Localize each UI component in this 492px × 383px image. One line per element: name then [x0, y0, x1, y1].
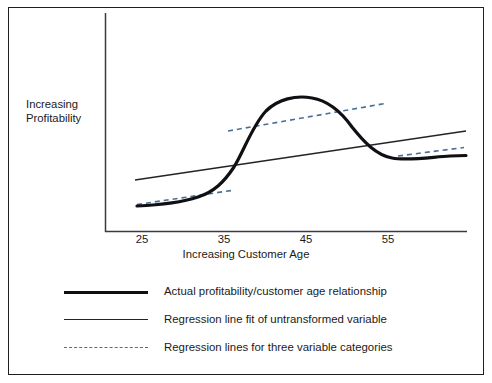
dashed-category-regression-lines: [137, 104, 464, 205]
legend-item-actual-curve: Actual profitability/customer age relati…: [64, 277, 464, 305]
x-axis-title: Increasing Customer Age: [0, 248, 492, 262]
xtick-label-25: 25: [122, 233, 162, 245]
dashed-line-middle: [228, 104, 385, 132]
xtick-label-45: 45: [286, 233, 326, 245]
dashed-line-young: [137, 190, 235, 205]
xtick-label-55: 55: [368, 233, 408, 245]
legend-label-category-regressions: Regression lines for three variable cate…: [148, 341, 393, 353]
legend-swatch-solid-thin-icon: [64, 312, 148, 326]
figure-root: Increasing Profitability 25 35 45 55 Inc…: [0, 0, 492, 383]
y-axis-title-line2: Profitability: [26, 112, 81, 126]
legend-swatch-dashed-icon: [64, 340, 148, 354]
actual-profitability-curve: [137, 97, 466, 206]
untransformed-regression-line: [135, 131, 466, 180]
y-axis-title-line1: Increasing: [26, 98, 81, 112]
xtick-label-35: 35: [204, 233, 244, 245]
legend-item-category-regressions: Regression lines for three variable cate…: [64, 333, 464, 361]
chart-legend: Actual profitability/customer age relati…: [64, 277, 464, 361]
legend-item-untransformed-regression: Regression line fit of untransformed var…: [64, 305, 464, 333]
y-axis-title: Increasing Profitability: [26, 98, 81, 125]
legend-label-actual-curve: Actual profitability/customer age relati…: [148, 285, 387, 297]
legend-swatch-solid-thick-icon: [64, 284, 148, 298]
legend-label-untransformed-regression: Regression line fit of untransformed var…: [148, 313, 387, 325]
